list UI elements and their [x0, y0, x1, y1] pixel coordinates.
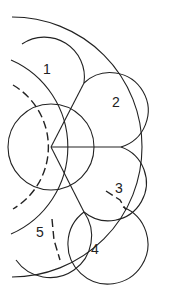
dashed-circle-arc: [13, 85, 48, 209]
dashed-divider-5: [52, 219, 60, 260]
zone-label-3: 3: [115, 180, 123, 196]
zone-label-5: 5: [36, 224, 44, 240]
arc-zone-1: [22, 37, 84, 83]
zone-label-2: 2: [112, 94, 120, 110]
zone-label-4: 4: [91, 241, 99, 257]
zone-label-1: 1: [43, 61, 51, 77]
arc-zone-4: [68, 207, 148, 284]
arc-zone-5: [16, 212, 92, 278]
zone-diagram: 1 2 3 4 5: [0, 0, 184, 286]
